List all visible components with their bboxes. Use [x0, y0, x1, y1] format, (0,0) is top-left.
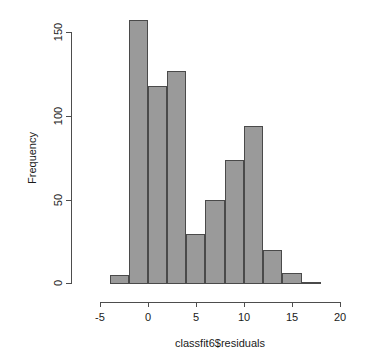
histogram-plot: 150 100 50 0 Frequency -5 0 5 10 15 20 c… — [0, 0, 375, 360]
bar-bin-2 — [129, 20, 148, 284]
x-tick-10 — [244, 302, 245, 307]
x-tick-neg5 — [100, 302, 101, 307]
bar-bin-9 — [263, 250, 282, 284]
y-tick-150 — [66, 32, 71, 33]
x-axis-line — [100, 302, 341, 303]
y-axis-line — [71, 32, 72, 284]
bar-bin-1 — [110, 275, 129, 284]
y-tick-label-0: 0 — [52, 280, 64, 286]
x-tick-label-15: 15 — [286, 311, 298, 323]
x-tick-5 — [196, 302, 197, 307]
y-tick-50 — [66, 200, 71, 201]
x-tick-0 — [148, 302, 149, 307]
y-axis-title: Frequency — [26, 132, 38, 184]
x-tick-label-neg5: -5 — [95, 311, 105, 323]
x-tick-20 — [340, 302, 341, 307]
bar-bin-6 — [205, 200, 225, 284]
x-axis-title: classfit6$residuals — [175, 337, 265, 349]
x-tick-label-5: 5 — [193, 311, 199, 323]
x-tick-label-20: 20 — [334, 311, 346, 323]
y-tick-100 — [66, 116, 71, 117]
x-tick-label-10: 10 — [238, 311, 250, 323]
bar-bin-4 — [167, 71, 186, 284]
y-tick-label-50: 50 — [52, 194, 64, 206]
bar-bin-11 — [302, 282, 321, 284]
y-tick-0 — [66, 283, 71, 284]
y-tick-label-150: 150 — [52, 23, 64, 41]
bar-bin-10 — [282, 273, 302, 284]
x-tick-label-0: 0 — [145, 311, 151, 323]
bar-bin-3 — [148, 86, 167, 284]
x-tick-15 — [292, 302, 293, 307]
y-tick-label-100: 100 — [52, 107, 64, 125]
bar-bin-8 — [244, 126, 263, 284]
bar-bin-5 — [186, 234, 205, 284]
bar-bin-7 — [225, 160, 244, 284]
